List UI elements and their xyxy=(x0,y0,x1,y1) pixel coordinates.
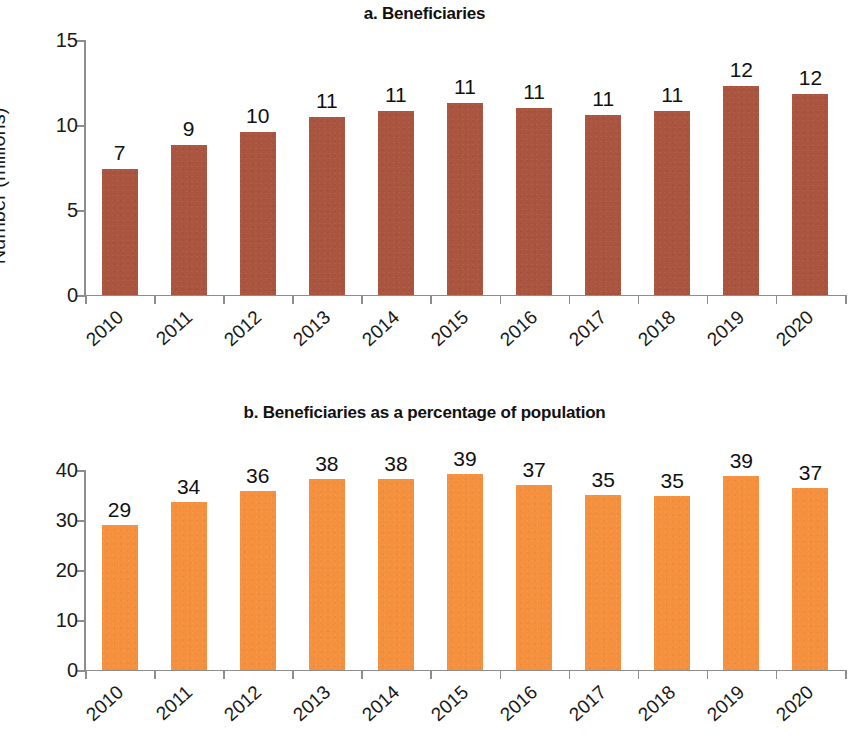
bar-value-label: 37 xyxy=(799,462,822,483)
bar[interactable]: 392015 xyxy=(447,474,483,670)
bar-value-label: 36 xyxy=(246,465,269,486)
bar[interactable]: 112014 xyxy=(378,111,414,295)
bar-value-label: 12 xyxy=(799,67,822,88)
bar-value-label: 37 xyxy=(522,459,545,480)
bar-value-label: 38 xyxy=(384,453,407,474)
x-axis-category-label: 2017 xyxy=(597,279,641,321)
x-axis-category-label: 2018 xyxy=(666,279,710,321)
panel-a-plot-area: 0510157201092011102012112013112014112015… xyxy=(85,40,845,295)
bar-value-label: 34 xyxy=(177,476,200,497)
y-tick-label: 15 xyxy=(56,30,78,50)
bar-value-label: 11 xyxy=(661,84,683,105)
bar[interactable]: 352017 xyxy=(585,495,621,671)
bar[interactable]: 372020 xyxy=(792,488,828,671)
x-axis-category-label: 2010 xyxy=(114,279,158,321)
x-tick-mark xyxy=(569,670,571,679)
x-tick-mark xyxy=(430,670,432,679)
y-tick-label: 30 xyxy=(56,510,78,530)
bar-value-label: 11 xyxy=(316,90,338,111)
x-axis-category-label: 2020 xyxy=(804,279,848,321)
bar[interactable]: 342011 xyxy=(171,502,207,671)
x-tick-mark xyxy=(638,670,640,679)
bar[interactable]: 372016 xyxy=(516,485,552,671)
bar-value-label: 39 xyxy=(453,448,476,469)
x-axis-category-label: 2018 xyxy=(666,654,710,696)
bar-value-label: 10 xyxy=(246,105,269,126)
bar-value-label: 29 xyxy=(108,499,131,520)
x-axis-category-label: 2016 xyxy=(528,654,572,696)
panel-b-plot-area: 0102030402920103420113620123820133820143… xyxy=(85,470,845,670)
panel-a-beneficiaries: a. Beneficiaries Number (millions) 05101… xyxy=(0,0,849,385)
bar[interactable]: 112015 xyxy=(447,103,483,295)
y-tick-label: 20 xyxy=(56,560,78,580)
bar[interactable]: 392019 xyxy=(723,476,759,671)
x-axis-category-label: 2019 xyxy=(735,279,779,321)
x-tick-mark xyxy=(361,670,363,679)
x-axis-category-label: 2011 xyxy=(183,655,226,696)
x-axis-category-label: 2015 xyxy=(459,654,503,696)
bar[interactable]: 122019 xyxy=(723,86,759,295)
x-tick-mark xyxy=(85,295,87,304)
x-tick-mark xyxy=(223,670,225,679)
x-tick-mark xyxy=(776,295,778,304)
x-tick-mark xyxy=(85,670,87,679)
bar[interactable]: 382014 xyxy=(378,479,414,670)
y-tick-label: 10 xyxy=(56,610,78,630)
x-tick-mark xyxy=(776,670,778,679)
x-tick-mark xyxy=(500,295,502,304)
x-axis-category-label: 2020 xyxy=(804,654,848,696)
bar[interactable]: 112016 xyxy=(516,108,552,295)
x-tick-mark xyxy=(569,295,571,304)
bar-value-label: 11 xyxy=(385,84,407,105)
bar[interactable]: 92011 xyxy=(171,145,207,295)
x-axis-category-label: 2013 xyxy=(321,654,365,696)
x-tick-mark xyxy=(292,670,294,679)
x-axis-category-label: 2010 xyxy=(114,654,158,696)
bar[interactable]: 112018 xyxy=(654,111,690,295)
x-tick-mark xyxy=(223,295,225,304)
x-axis-category-label: 2012 xyxy=(252,654,296,696)
x-tick-mark xyxy=(707,670,709,679)
x-axis-category-label: 2016 xyxy=(528,279,572,321)
panel-b-title: b. Beneficiaries as a percentage of popu… xyxy=(0,403,849,423)
bar[interactable]: 112013 xyxy=(309,117,345,296)
x-tick-mark xyxy=(707,295,709,304)
y-tick-label: 0 xyxy=(67,660,78,680)
x-tick-mark xyxy=(361,295,363,304)
x-axis-category-label: 2013 xyxy=(321,279,365,321)
bar[interactable]: 112017 xyxy=(585,115,621,295)
bar[interactable]: 72010 xyxy=(102,169,138,295)
bar-value-label: 7 xyxy=(114,142,126,163)
bar-value-label: 35 xyxy=(591,469,614,490)
bar-value-label: 11 xyxy=(592,88,614,109)
x-tick-mark xyxy=(845,670,847,679)
bar[interactable]: 352018 xyxy=(654,496,690,670)
panel-a-y-axis-title: Number (millions) xyxy=(0,86,10,286)
bar-value-label: 38 xyxy=(315,453,338,474)
panel-b-beneficiaries-percentage: b. Beneficiaries as a percentage of popu… xyxy=(0,385,849,737)
y-tick-label: 0 xyxy=(67,285,78,305)
bar-value-label: 12 xyxy=(730,59,753,80)
bar[interactable]: 292010 xyxy=(102,525,138,670)
y-tick-label: 10 xyxy=(56,115,78,135)
x-tick-mark xyxy=(154,670,156,679)
bar-value-label: 9 xyxy=(183,118,195,139)
x-axis-category-label: 2011 xyxy=(183,280,226,321)
bar[interactable]: 382013 xyxy=(309,479,345,670)
x-axis-category-label: 2012 xyxy=(252,279,296,321)
x-tick-mark xyxy=(430,295,432,304)
x-axis-category-label: 2019 xyxy=(735,654,779,696)
bar[interactable]: 362012 xyxy=(240,491,276,670)
bar[interactable]: 122020 xyxy=(792,94,828,295)
bar[interactable]: 102012 xyxy=(240,132,276,295)
x-axis-category-label: 2014 xyxy=(390,654,434,696)
x-tick-mark xyxy=(845,295,847,304)
x-axis-category-label: 2015 xyxy=(459,279,503,321)
x-axis-category-label: 2017 xyxy=(597,654,641,696)
bar-value-label: 11 xyxy=(454,76,476,97)
y-tick-label: 5 xyxy=(67,200,78,220)
figure-two-panel-bar-charts: a. Beneficiaries Number (millions) 05101… xyxy=(0,0,849,737)
bar-value-label: 39 xyxy=(730,450,753,471)
x-axis-category-label: 2014 xyxy=(390,279,434,321)
x-tick-mark xyxy=(154,295,156,304)
